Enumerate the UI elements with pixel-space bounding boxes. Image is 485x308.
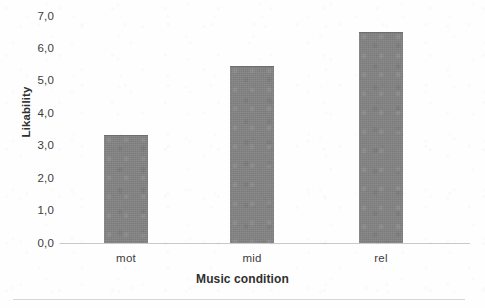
y-axis-tick-labels: 7,06,05,04,03,02,01,00,0 [12,0,54,308]
bar-mot [104,135,148,243]
y-axis-tick-50: 5,0 [20,74,54,86]
x-axis-label-rel: rel [341,252,421,264]
y-axis-tick-20: 2,0 [20,172,54,184]
y-axis-tick-70: 7,0 [20,10,54,22]
bar-mid [230,66,274,242]
y-axis-tick-40: 4,0 [20,107,54,119]
x-axis-label-mot: mot [86,252,166,264]
bar-chart-figure: Likability 7,06,05,04,03,02,01,00,0 motm… [0,0,485,308]
y-axis-tick-10: 1,0 [20,204,54,216]
bar-rel [359,32,403,242]
y-axis-tick-60: 6,0 [20,42,54,54]
x-axis-label-mid: mid [212,252,292,264]
x-axis-title: Music condition [0,272,485,286]
y-axis-tick-00: 0,0 [20,237,54,249]
plot-area [60,16,470,243]
y-axis-tick-30: 3,0 [20,139,54,151]
page-divider-rule [13,299,465,300]
x-axis-line [60,243,470,244]
